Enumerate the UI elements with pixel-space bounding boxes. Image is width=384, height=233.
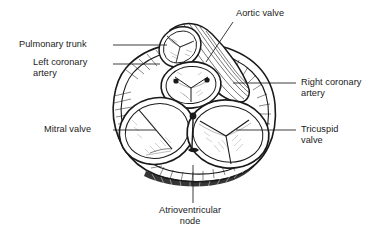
label-atrioventricular-node: Atrioventricularnode	[159, 205, 221, 227]
left-coronary-ostium	[173, 78, 178, 83]
label-right-coronary-artery: Right coronaryartery	[301, 77, 361, 99]
label-atrioventricular-node-line1: Atrioventricular	[159, 205, 221, 215]
figure-container: Pulmonary trunk Left coronaryartery Mitr…	[0, 0, 384, 233]
label-atrioventricular-node-line2: node	[180, 216, 201, 226]
label-tricuspid-valve-line1: Tricuspid	[301, 124, 338, 134]
label-left-coronary-artery-line2: artery	[33, 68, 57, 78]
label-mitral-valve: Mitral valve	[44, 124, 91, 135]
label-left-coronary-artery: Left coronaryartery	[33, 57, 87, 79]
label-tricuspid-valve: Tricuspidvalve	[301, 124, 338, 146]
label-aortic-valve: Aortic valve	[236, 8, 284, 19]
label-pulmonary-trunk: Pulmonary trunk	[19, 39, 87, 50]
heart-valves-illustration	[0, 0, 384, 233]
label-right-coronary-artery-line2: artery	[301, 88, 325, 98]
label-left-coronary-artery-line1: Left coronary	[33, 57, 87, 67]
label-tricuspid-valve-line2: valve	[301, 135, 323, 145]
label-right-coronary-artery-line1: Right coronary	[301, 77, 361, 87]
right-coronary-ostium	[204, 77, 209, 82]
